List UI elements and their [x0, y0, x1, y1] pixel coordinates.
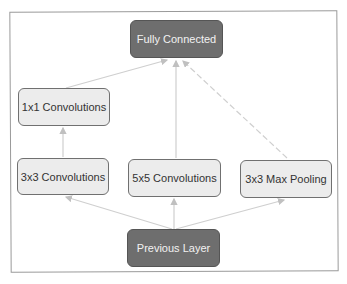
node-5x5-convolutions: 5x5 Convolutions	[128, 159, 221, 197]
node-3x3-convolutions: 3x3 Convolutions	[17, 158, 109, 195]
node-label: Previous Layer	[137, 242, 210, 254]
edge-prev-to-3x3	[66, 197, 172, 229]
node-previous-layer: Previous Layer	[127, 229, 220, 267]
node-1x1-convolutions: 1x1 Convolutions	[18, 88, 110, 126]
node-label: 3x3 Max Pooling	[245, 173, 326, 185]
node-label: 5x5 Convolutions	[132, 172, 216, 184]
node-label: 1x1 Convolutions	[22, 101, 106, 113]
edge-maxpool-to-fc	[183, 61, 287, 158]
node-3x3-max-pooling: 3x3 Max Pooling	[240, 160, 332, 198]
node-label: Fully Connected	[137, 33, 217, 45]
edge-prev-to-maxpool	[176, 200, 284, 229]
edge-1x1-to-fc	[66, 60, 167, 88]
node-fully-connected: Fully Connected	[130, 20, 223, 58]
node-label: 3x3 Convolutions	[21, 171, 105, 183]
